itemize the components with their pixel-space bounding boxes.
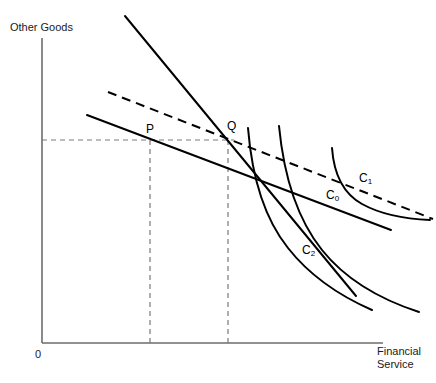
indifference-curve-diagram: Other Goods FinancialService 0 P Q C0 C1… (0, 0, 436, 383)
curve-label-c1-base: C (359, 171, 368, 185)
curve-label-c1: C1 (359, 171, 372, 185)
steep-budget-line (125, 16, 356, 296)
compensated-budget-line (108, 92, 433, 219)
indifference-curve-c0 (279, 126, 419, 312)
curve-label-c2: C2 (302, 243, 315, 257)
point-label-q: Q (227, 119, 236, 133)
x-axis-label: FinancialService (377, 345, 421, 371)
y-axis-label: Other Goods (10, 21, 73, 34)
curve-label-c1-sub: 1 (368, 177, 372, 186)
diagram-canvas (0, 0, 436, 383)
curve-label-c2-sub: 2 (311, 249, 315, 258)
indifference-curve-c1 (332, 148, 430, 220)
x-axis-label-line1: Financial (377, 345, 421, 357)
curve-label-c0: C0 (326, 188, 339, 202)
curve-label-c0-sub: 0 (335, 194, 339, 203)
indifference-curve-c2 (248, 128, 372, 310)
curve-label-c2-base: C (302, 243, 311, 257)
x-axis-label-line2: Service (377, 358, 414, 370)
origin-label: 0 (35, 348, 41, 361)
flat-budget-line (87, 115, 391, 230)
point-label-p: P (146, 122, 154, 136)
curve-label-c0-base: C (326, 188, 335, 202)
